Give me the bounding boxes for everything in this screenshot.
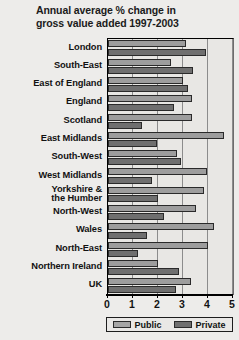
category-label: UK xyxy=(89,280,102,290)
bar-public xyxy=(108,150,177,157)
category-label: London xyxy=(69,43,102,53)
legend-item: Private xyxy=(174,320,225,330)
category-label: North-West xyxy=(53,207,102,217)
category-label: Scotland xyxy=(64,116,102,126)
gridline-5 xyxy=(232,39,233,295)
axis-tick-label: 1 xyxy=(129,298,135,310)
category-label: West Midlands xyxy=(38,171,102,181)
bar-private xyxy=(108,49,206,56)
category-label: East of England xyxy=(33,79,102,89)
bar-private xyxy=(108,177,152,184)
category-label: England xyxy=(66,97,102,107)
bar-public xyxy=(108,132,224,139)
gridline-4 xyxy=(207,39,208,295)
category-label: North-East xyxy=(55,244,102,254)
bar-public xyxy=(108,242,208,249)
bar-private xyxy=(108,140,157,147)
bar-public xyxy=(108,95,192,102)
title-line-2: gross value added 1997-2003 xyxy=(36,17,232,30)
bar-public xyxy=(108,205,196,212)
bar-public xyxy=(108,77,183,84)
bar-public xyxy=(108,168,207,175)
chart-page: Annual average % change in gross value a… xyxy=(0,0,239,340)
category-label: South-East xyxy=(54,61,102,71)
category-label: East Midlands xyxy=(41,134,102,144)
legend-swatch-icon xyxy=(113,321,131,328)
bar-private xyxy=(108,286,176,293)
plot-area xyxy=(107,38,234,295)
bar-public xyxy=(108,40,186,47)
category-label: Yorkshire & the Humber xyxy=(51,185,102,204)
title-line-1: Annual average % change in xyxy=(36,4,232,17)
chart-legend: PublicPrivate xyxy=(106,317,233,332)
bar-public xyxy=(108,223,214,230)
bar-private xyxy=(108,232,147,239)
legend-label: Public xyxy=(134,320,161,330)
bar-chart: LondonSouth-EastEast of EnglandEnglandSc… xyxy=(0,38,239,310)
bar-private xyxy=(108,122,142,129)
axis-tick-label: 3 xyxy=(179,298,185,310)
bar-public xyxy=(108,278,191,285)
axis-tick-label: 5 xyxy=(229,298,235,310)
bar-private xyxy=(108,250,138,257)
axis-tick-label: 0 xyxy=(104,298,110,310)
legend-label: Private xyxy=(195,320,225,330)
legend-item: Public xyxy=(113,320,161,330)
category-label: Northern Ireland xyxy=(31,262,102,272)
bar-private xyxy=(108,67,193,74)
bar-public xyxy=(108,59,171,66)
bar-private xyxy=(108,195,158,202)
bar-public xyxy=(108,260,158,267)
axis-tick-label: 2 xyxy=(154,298,160,310)
axis-tick-label: 4 xyxy=(204,298,210,310)
category-label: South-West xyxy=(52,152,102,162)
category-label: Wales xyxy=(76,225,102,235)
legend-swatch-icon xyxy=(174,321,192,328)
category-labels: LondonSouth-EastEast of EnglandEnglandSc… xyxy=(0,38,106,294)
bar-private xyxy=(108,158,181,165)
bar-public xyxy=(108,114,192,121)
x-axis-line xyxy=(106,294,233,296)
bar-private xyxy=(108,268,179,275)
page-title: Annual average % change in gross value a… xyxy=(36,4,232,30)
bar-private xyxy=(108,85,188,92)
bar-private xyxy=(108,104,174,111)
bar-private xyxy=(108,213,164,220)
bar-public xyxy=(108,187,204,194)
